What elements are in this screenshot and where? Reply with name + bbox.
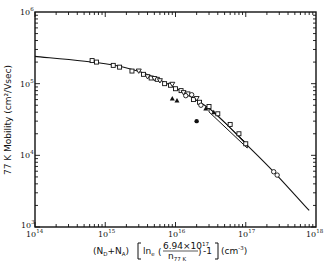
y-axis-title: 77 K Mobility (cm²/Vsec) (3, 65, 13, 175)
open-squares-marker (118, 65, 122, 69)
open-squares-marker (90, 59, 94, 63)
svg-text:n77 K: n77 K (168, 251, 186, 262)
x-tick-1e14: 1014 (26, 228, 44, 239)
open-circles-marker (189, 93, 193, 97)
filled-circle-marker (194, 119, 198, 123)
x-tick-1e15: 1015 (98, 228, 116, 239)
open-squares-marker (244, 142, 248, 146)
svg-text:lne: lne (143, 246, 155, 257)
svg-text:(ND+NA): (ND+NA) (93, 246, 129, 257)
mobility-chart: 106 105 104 103 1014 1015 1016 1017 1018… (0, 0, 331, 265)
open-circles-marker (184, 93, 188, 97)
open-triangles-down-marker (136, 69, 141, 73)
open-squares-marker (207, 105, 211, 109)
x-tick-1e18: 1018 (306, 228, 324, 239)
open-squares-marker (174, 87, 178, 91)
svg-text:-1: -1 (203, 246, 212, 256)
open-squares-marker (111, 63, 115, 67)
filled-triangles-marker (174, 98, 179, 103)
svg-text:(cm-3): (cm-3) (221, 245, 247, 256)
plot-frame (35, 12, 316, 227)
open-triangles-down-marker (157, 79, 162, 83)
filled-triangles-marker (170, 96, 175, 101)
x-tick-1e17: 1017 (238, 228, 256, 239)
y-tick-1e3: 103 (21, 219, 35, 230)
y-tick-1e5: 105 (20, 78, 34, 89)
y-tick-labels: 106 105 104 103 (20, 6, 35, 230)
open-squares-marker (216, 112, 220, 116)
svg-text:): ) (198, 247, 202, 257)
x-tick-1e16: 1016 (168, 228, 186, 239)
y-tick-1e4: 104 (20, 149, 34, 160)
y-tick-1e6: 106 (20, 6, 34, 17)
open-squares-marker (94, 60, 98, 64)
theory-curve (35, 56, 309, 210)
minor-ticks (35, 12, 316, 227)
open-squares-marker (163, 82, 167, 86)
data-markers (90, 59, 279, 178)
open-squares-marker (130, 69, 134, 73)
open-squares-marker (228, 122, 232, 126)
svg-text:(: ( (158, 247, 162, 257)
x-tick-labels: 1014 1015 1016 1017 1018 (26, 228, 324, 239)
x-axis-title: (ND+NA) lne ( 6.94×1017 n77 K ) -1 (cm-3… (93, 241, 247, 262)
open-squares-marker (237, 132, 241, 136)
open-circles-marker (275, 173, 279, 177)
open-circles-marker (199, 103, 203, 107)
